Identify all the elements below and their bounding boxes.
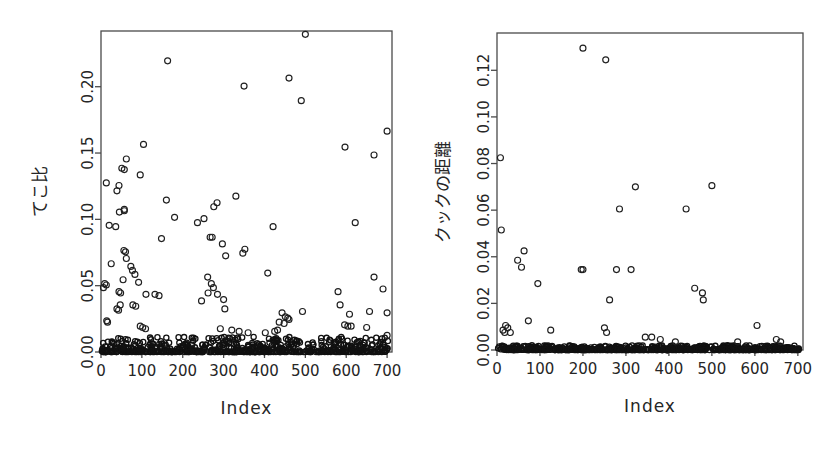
- data-point: [123, 249, 129, 255]
- cooks-yticklabel: 0.04: [475, 240, 493, 273]
- leverage-xticklabel: 400: [250, 362, 279, 380]
- data-point: [302, 31, 308, 37]
- data-point: [342, 144, 348, 150]
- cooks-yticklabel: 0.08: [475, 147, 493, 180]
- data-point: [123, 156, 129, 162]
- cooks-distance-plot: 01002003004005006007000.000.020.040.060.…: [411, 0, 823, 453]
- data-point: [657, 337, 663, 343]
- data-point: [683, 206, 689, 212]
- data-point: [700, 297, 706, 303]
- data-point: [632, 184, 638, 190]
- data-point: [172, 214, 178, 220]
- cooks-yticklabel: 0.12: [475, 54, 493, 87]
- leverage-xticklabel: 200: [168, 362, 197, 380]
- data-point: [241, 83, 247, 89]
- cooks-yticklabel: 0.10: [475, 100, 493, 133]
- data-point: [219, 241, 225, 247]
- data-point: [108, 261, 114, 267]
- leverage-yticklabel: 0.20: [79, 70, 97, 103]
- data-point: [613, 267, 619, 273]
- data-point: [233, 193, 239, 199]
- panel-leverage: 01002003004005006007000.000.050.100.150.…: [0, 0, 412, 453]
- data-point: [642, 334, 648, 340]
- data-point: [335, 289, 341, 295]
- data-point: [298, 98, 304, 104]
- data-point: [223, 253, 229, 259]
- cooks-yaxis-label: クックの距離: [433, 141, 453, 243]
- data-point: [709, 183, 715, 189]
- leverage-yticklabel: 0.05: [79, 269, 97, 302]
- data-point: [607, 297, 613, 303]
- data-point: [692, 285, 698, 291]
- data-point: [229, 327, 235, 333]
- data-point: [206, 336, 211, 341]
- data-point: [211, 204, 217, 210]
- data-point: [519, 264, 525, 270]
- data-point: [141, 141, 147, 147]
- data-point: [367, 309, 373, 315]
- data-point: [143, 291, 149, 297]
- data-point: [498, 227, 504, 233]
- leverage-yticklabel: 0.00: [79, 335, 97, 368]
- data-point: [221, 297, 227, 303]
- data-point: [754, 323, 760, 329]
- data-point: [194, 220, 200, 226]
- data-point: [120, 277, 126, 283]
- leverage-plot-frame: [101, 31, 392, 352]
- data-point: [515, 257, 521, 263]
- data-point: [214, 291, 220, 297]
- leverage-xticklabel: 700: [373, 362, 402, 380]
- data-point: [699, 290, 705, 296]
- leverage-xticklabel: 0: [96, 362, 106, 380]
- data-point: [286, 75, 292, 81]
- data-point: [123, 255, 129, 261]
- cooks-xticklabel: 100: [526, 360, 555, 378]
- data-point: [649, 334, 655, 340]
- leverage-xticklabel: 300: [209, 362, 238, 380]
- data-point: [346, 311, 352, 317]
- data-point: [535, 281, 541, 287]
- cooks-yticklabel: 0.02: [475, 287, 493, 320]
- data-point: [106, 222, 112, 228]
- data-point: [384, 310, 390, 316]
- data-point: [118, 290, 124, 296]
- data-point: [165, 58, 171, 64]
- data-point: [214, 200, 220, 206]
- panel-cooks-distance: 01002003004005006007000.000.020.040.060.…: [411, 0, 823, 453]
- data-point: [205, 274, 211, 280]
- data-point: [371, 274, 377, 280]
- data-point: [299, 309, 305, 315]
- leverage-plot: 01002003004005006007000.000.050.100.150.…: [0, 0, 412, 453]
- data-point: [345, 338, 350, 343]
- data-point: [176, 335, 181, 340]
- data-point: [385, 338, 390, 343]
- cooks-xticklabel: 700: [784, 360, 813, 378]
- cooks-xticklabel: 500: [698, 360, 727, 378]
- cooks-xticklabel: 400: [655, 360, 684, 378]
- data-point: [603, 57, 609, 63]
- data-point: [137, 172, 143, 178]
- data-point: [371, 152, 377, 158]
- leverage-outlier-points: [100, 31, 390, 338]
- data-point: [199, 298, 205, 304]
- data-point: [384, 128, 390, 134]
- cooks-outlier-points: [497, 45, 783, 345]
- cooks-dense-band: [496, 343, 802, 353]
- cooks-plot-frame: [497, 33, 803, 350]
- data-point: [352, 220, 358, 226]
- data-point: [156, 293, 162, 299]
- leverage-xticklabel: 500: [291, 362, 320, 380]
- cooks-xticklabel: 600: [741, 360, 770, 378]
- data-point: [262, 330, 268, 336]
- cooks-xaxis-label: Index: [624, 396, 676, 416]
- cooks-yticklabel: 0.06: [475, 193, 493, 226]
- data-point: [205, 290, 211, 296]
- data-point: [141, 339, 146, 344]
- data-point: [116, 307, 122, 313]
- data-point: [265, 270, 271, 276]
- leverage-xticklabel: 600: [332, 362, 361, 380]
- data-point: [181, 335, 186, 340]
- data-point: [337, 302, 343, 308]
- data-point: [521, 248, 527, 254]
- data-point: [236, 328, 242, 334]
